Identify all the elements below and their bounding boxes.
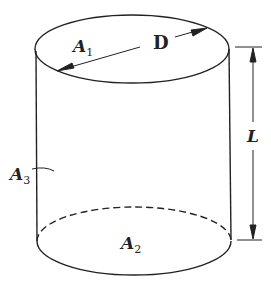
label-diameter: D	[153, 32, 169, 53]
left-side-line	[36, 51, 37, 241]
arrowhead-left-icon	[57, 63, 74, 71]
arrowhead-right-icon	[191, 28, 207, 36]
cylinder-diagram: A1 D L A3 A2	[0, 0, 271, 290]
label-bottom-area: A2	[119, 233, 141, 256]
arrowhead-up-icon	[250, 48, 256, 62]
arrowhead-down-icon	[250, 225, 256, 239]
label-length: L	[246, 126, 259, 146]
lateral-area-leader	[32, 168, 54, 171]
label-lateral-area: A3	[8, 164, 30, 187]
right-side-line	[229, 49, 231, 240]
label-top-area: A1	[71, 36, 93, 59]
